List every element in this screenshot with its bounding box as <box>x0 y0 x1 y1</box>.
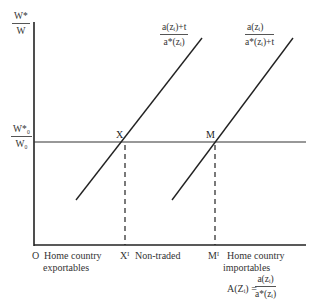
reference-label-denominator: W₀ <box>11 137 32 150</box>
point-m-label: M <box>206 129 215 140</box>
curve-left-label-numerator: a(zᵢ)+t <box>160 22 188 35</box>
formula-numerator: a(zᵢ) <box>255 274 276 287</box>
curve-right-line <box>172 38 293 200</box>
formula-denominator: a*(zᵢ) <box>255 287 276 300</box>
reference-line-label: W*₀ W₀ <box>11 124 32 150</box>
formula-lhs: A(Zᵢ) = <box>227 283 257 294</box>
y-axis-label-numerator: W* <box>12 11 30 24</box>
exportables-label-line2: exportables <box>43 262 89 273</box>
point-x-label: X <box>116 129 123 140</box>
m-prime-label: Mᴵ <box>208 250 219 261</box>
curve-left-label: a(zᵢ)+t a*(zᵢ) <box>160 22 188 48</box>
curve-left-label-denominator: a*(zᵢ) <box>160 35 188 48</box>
y-axis-label: W* W <box>12 11 30 37</box>
curve-left-line <box>76 38 202 200</box>
importables-label-line2: importables <box>223 262 270 273</box>
reference-label-numerator: W*₀ <box>11 124 32 137</box>
origin-label: O <box>32 250 39 261</box>
x-prime-label: Xᴵ <box>120 250 129 261</box>
y-axis-label-denominator: W <box>12 24 30 37</box>
curve-right-label: a(zᵢ) a*(zᵢ)+t <box>245 22 274 48</box>
curve-right-label-denominator: a*(zᵢ)+t <box>245 35 274 48</box>
exportables-label-line1: Home country <box>44 250 102 261</box>
importables-label-line1: Home country <box>227 250 285 261</box>
formula-fraction: a(zᵢ) a*(zᵢ) <box>255 274 276 300</box>
non-traded-label: Non-traded <box>135 250 181 261</box>
curve-right-label-numerator: a(zᵢ) <box>245 22 274 35</box>
